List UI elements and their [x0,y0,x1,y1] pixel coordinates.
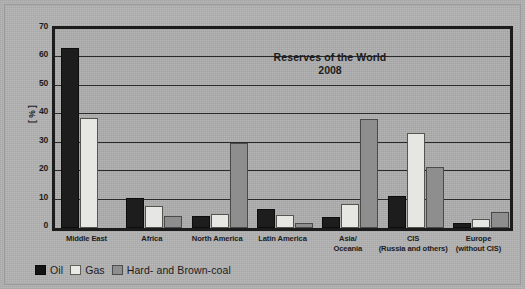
bar-group [453,29,510,228]
bar-group [61,29,118,228]
bar-gas [276,215,294,228]
y-tick-label-60: 60 [39,49,48,59]
bar-gas [341,204,359,228]
bar-gas [145,206,163,228]
bar-gas [80,118,98,228]
y-tick-label-40: 40 [39,106,48,116]
bar-group [257,29,314,228]
bar-oil [322,217,340,228]
bar-group [126,29,183,228]
bar-group [322,29,379,228]
bar-group [192,29,249,228]
legend-label: Oil [50,264,63,276]
figure-frame: [ % ] 010203040506070 Reserves of the Wo… [4,4,521,285]
bar-oil [192,216,210,228]
bar-oil [61,48,79,228]
bar-oil [388,196,406,228]
plot-area: Reserves of the World 2008 [52,26,513,231]
x-axis-label: Europe (without CIS) [436,234,521,253]
bar-coal [164,216,182,228]
screenshot-root: [ % ] 010203040506070 Reserves of the Wo… [0,0,525,289]
y-tick-label-70: 70 [39,21,48,31]
legend-item: Hard- and Brown-coal [112,264,231,276]
y-axis-title: [ % ] [27,105,37,123]
bar-oil [126,198,144,228]
bar-gas [472,219,490,228]
bar-coal [491,212,509,228]
legend-swatch-coal [112,265,123,275]
bar-coal [426,167,444,228]
bar-oil [453,223,471,228]
y-axis: [ % ] 010203040506070 [25,19,52,238]
bar-gas [211,214,229,228]
legend: OilGasHard- and Brown-coal [35,264,231,276]
bar-coal [360,119,378,228]
x-axis-category-labels: Middle EastAfricaNorth AmericaLatin Amer… [52,234,513,260]
legend-label: Gas [85,264,105,276]
y-tick-label-30: 30 [39,135,48,145]
legend-label: Hard- and Brown-coal [127,264,231,276]
legend-swatch-gas [70,265,81,275]
bar-oil [257,209,275,228]
y-tick-label-20: 20 [39,163,48,173]
y-tick-label-0: 0 [43,220,48,230]
y-tick-label-10: 10 [39,192,48,202]
legend-item: Oil [35,264,63,276]
bar-group [388,29,445,228]
bar-gas [407,133,425,228]
bar-coal [230,143,248,228]
legend-item: Gas [70,264,105,276]
legend-swatch-oil [35,265,46,275]
y-tick-label-50: 50 [39,78,48,88]
bars-layer [55,29,510,228]
bar-coal [295,223,313,228]
